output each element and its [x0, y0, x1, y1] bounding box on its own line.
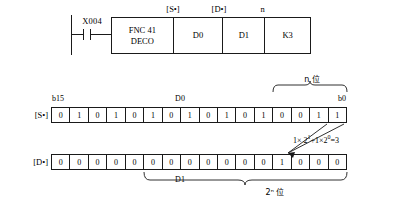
formula-prefix: 1× 2 [293, 136, 308, 145]
source-bit-5: 0 [236, 108, 254, 122]
destination-bit-12: 0 [107, 155, 125, 169]
contact-wire-left [71, 34, 83, 35]
source-bit-grid: 0101010101010011 [51, 107, 347, 123]
caption-b0: b0 [318, 94, 346, 103]
annotation-formula: 1× 21+1×20=3 [293, 136, 397, 145]
instruction-mnemonic-cell: FNC 41 DECO [112, 18, 174, 53]
contact-label-x004: X004 [72, 16, 112, 26]
source-bit-14: 1 [70, 108, 88, 122]
row-label-destination: [D•] [18, 157, 48, 167]
source-bit-9: 0 [163, 108, 181, 122]
destination-bit-11: 0 [126, 155, 144, 169]
source-bit-6: 1 [218, 108, 236, 122]
formula-middle: +1×2 [311, 136, 328, 145]
destination-bit-7: 0 [200, 155, 218, 169]
caption-d0-register: D0 [160, 94, 200, 103]
header-n-operand: n [240, 4, 285, 14]
destination-bit-1: 0 [310, 155, 328, 169]
instruction-box: FNC 41 DECO D0 D1 K3 [111, 17, 311, 54]
destination-bit-14: 0 [70, 155, 88, 169]
destination-bit-13: 0 [89, 155, 107, 169]
contact-bar-left [83, 29, 84, 40]
source-bit-4: 1 [255, 108, 273, 122]
source-bit-13: 0 [89, 108, 107, 122]
destination-bit-3: 1 [273, 155, 291, 169]
source-bit-3: 0 [273, 108, 291, 122]
destination-bit-9: 0 [163, 155, 181, 169]
destination-bit-2: 0 [292, 155, 310, 169]
destination-bit-6: 0 [218, 155, 236, 169]
destination-bit-8: 0 [181, 155, 199, 169]
source-bit-11: 0 [126, 108, 144, 122]
instruction-mnemonic: DECO [131, 36, 154, 47]
destination-bit-10: 0 [144, 155, 162, 169]
caption-n-bits: n 位 [287, 73, 337, 84]
caption-d1-register: D1 [160, 175, 200, 184]
source-bit-0: 1 [329, 108, 346, 122]
formula-suffix: =3 [331, 136, 340, 145]
source-bit-8: 1 [181, 108, 199, 122]
source-bit-1: 1 [310, 108, 328, 122]
source-bit-15: 0 [52, 108, 70, 122]
caption-2n-bits: 2ⁿ 位 [230, 186, 320, 197]
instruction-fnc-number: FNC 41 [129, 25, 156, 36]
source-bit-12: 1 [107, 108, 125, 122]
destination-bit-5: 0 [236, 155, 254, 169]
source-bit-10: 1 [144, 108, 162, 122]
caption-b15: b15 [52, 94, 82, 103]
contact-wire-right [90, 34, 111, 35]
source-bit-7: 0 [200, 108, 218, 122]
header-destination-operand: [D•] [198, 4, 240, 14]
destination-bit-4: 0 [255, 155, 273, 169]
header-source-operand: [S•] [148, 4, 198, 14]
instruction-count-cell: K3 [265, 18, 310, 53]
destination-bit-grid: 0000000000001000 [51, 154, 347, 170]
destination-bit-15: 0 [52, 155, 70, 169]
source-bit-2: 0 [292, 108, 310, 122]
instruction-destination-cell: D1 [223, 18, 265, 53]
deco-instruction-diagram: X004 [S•] [D•] n FNC 41 DECO D0 D1 K3 b1… [0, 0, 397, 211]
destination-bit-0: 0 [329, 155, 346, 169]
instruction-source-cell: D0 [174, 18, 224, 53]
row-label-source: [S•] [18, 110, 48, 120]
